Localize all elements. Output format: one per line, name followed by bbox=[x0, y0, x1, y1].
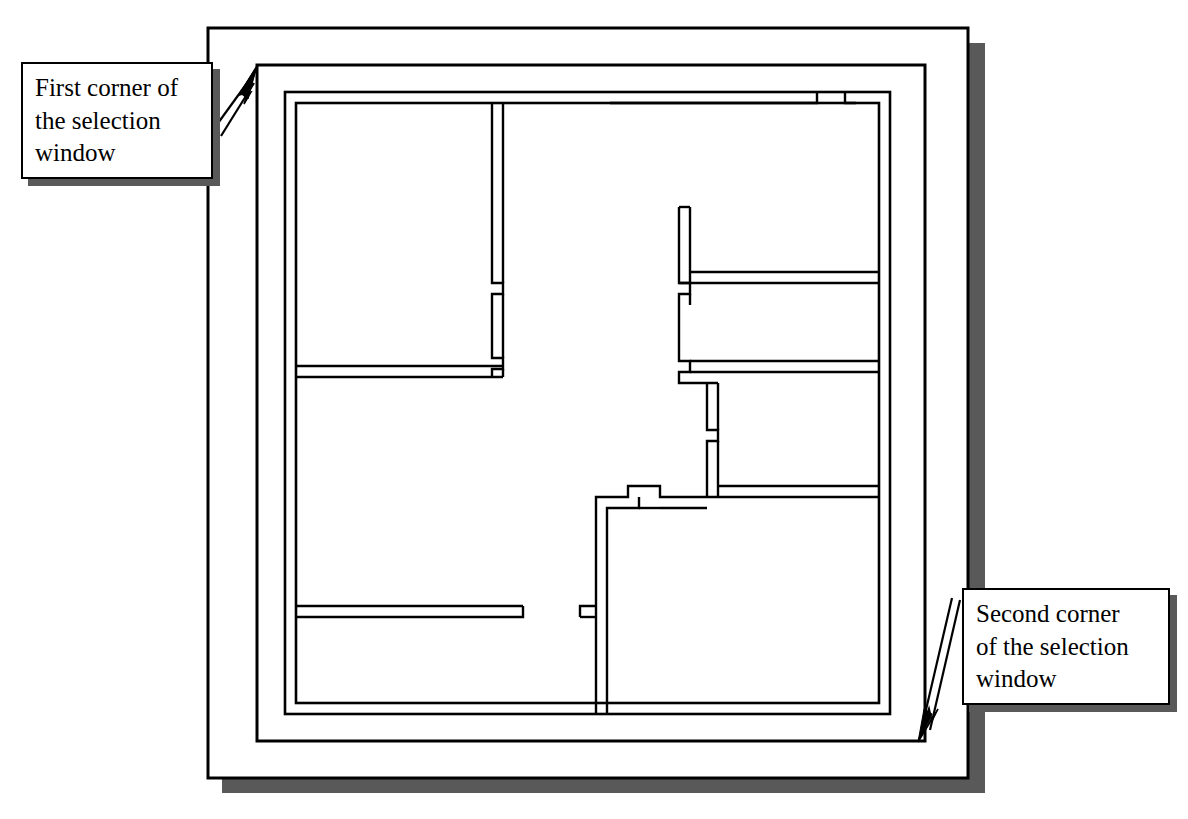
outer-frame bbox=[208, 28, 968, 778]
callout-second-line-2: of the selection bbox=[976, 631, 1158, 664]
callout-first-line-2: the selection bbox=[35, 105, 201, 138]
callout-first-line-1: First corner of bbox=[35, 72, 201, 105]
callout-second-line-1: Second corner bbox=[976, 598, 1158, 631]
callout-first-line-3: window bbox=[35, 137, 201, 170]
callout-second-line-3: window bbox=[976, 663, 1158, 696]
callout-first-corner: First corner of the selection window bbox=[21, 62, 213, 179]
diagram-stage: First corner of the selection window Sec… bbox=[0, 0, 1188, 819]
callout-second-corner: Second corner of the selection window bbox=[962, 588, 1170, 705]
